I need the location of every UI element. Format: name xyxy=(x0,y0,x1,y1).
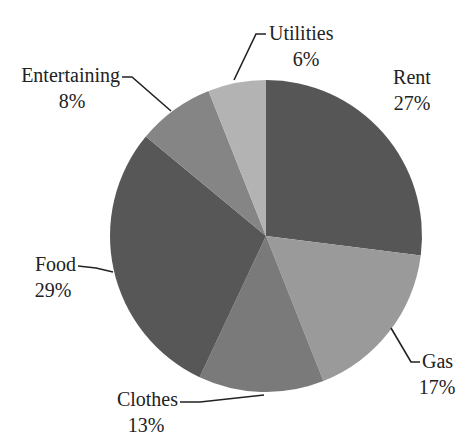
label-rent: Rent 27% xyxy=(393,66,431,114)
leader-line-food xyxy=(78,266,113,272)
label-entertaining: Entertaining 8% xyxy=(21,64,120,112)
label-clothes-pct: 13% xyxy=(128,414,165,436)
label-food-name: Food xyxy=(35,253,76,275)
label-utilities-pct: 6% xyxy=(293,48,320,70)
leader-line-utilities xyxy=(234,34,266,80)
label-gas: Gas 17% xyxy=(419,350,456,398)
label-entertaining-name: Entertaining xyxy=(21,64,120,87)
label-food-pct: 29% xyxy=(35,279,72,301)
pie-chart: Rent 27% Gas 17% Clothes 13% Food 29% En… xyxy=(0,0,476,440)
label-utilities-name: Utilities xyxy=(269,22,334,44)
pie-slices xyxy=(110,80,422,392)
label-clothes: Clothes 13% xyxy=(117,388,178,436)
leader-line-clothes xyxy=(180,395,264,402)
label-food: Food 29% xyxy=(35,253,76,301)
leader-line-gas xyxy=(391,328,420,362)
leader-line-entertaining xyxy=(122,77,171,111)
label-gas-name: Gas xyxy=(422,350,453,372)
label-clothes-name: Clothes xyxy=(117,388,178,410)
label-entertaining-pct: 8% xyxy=(59,90,86,112)
label-gas-pct: 17% xyxy=(419,376,456,398)
label-utilities: Utilities 6% xyxy=(269,22,334,70)
label-rent-name: Rent xyxy=(393,66,431,88)
label-rent-pct: 27% xyxy=(394,92,431,114)
